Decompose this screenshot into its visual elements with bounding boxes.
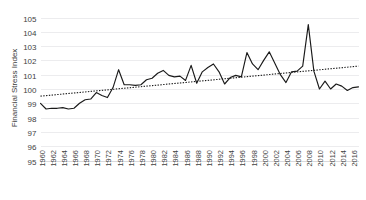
x-tick-1974: 1974 — [116, 150, 125, 166]
x-tick-1984: 1984 — [171, 150, 180, 166]
y-tick-103: 103 — [23, 43, 37, 52]
x-tick-2000: 2000 — [261, 150, 270, 166]
x-tick-1990: 1990 — [205, 150, 214, 166]
x-tick-1970: 1970 — [93, 150, 102, 166]
x-tick-1960: 1960 — [38, 150, 47, 166]
x-tick-1982: 1982 — [160, 150, 169, 166]
x-tick-2002: 2002 — [272, 150, 281, 166]
chart-plot-area: 9596979899100101102103104105 19601962196… — [0, 0, 366, 200]
y-tick-99: 99 — [28, 100, 37, 109]
x-tick-1996: 1996 — [238, 150, 247, 166]
x-tick-1992: 1992 — [216, 150, 225, 166]
x-tick-1980: 1980 — [149, 150, 158, 166]
x-tick-2004: 2004 — [283, 150, 292, 166]
x-tick-2014: 2014 — [339, 150, 348, 166]
x-tick-2010: 2010 — [316, 150, 325, 166]
x-tick-2006: 2006 — [294, 150, 303, 166]
x-tick-1978: 1978 — [138, 150, 147, 166]
financial-stress-index-chart: Financial Stress Index 95969798991001011… — [0, 0, 366, 200]
x-tick-2016: 2016 — [350, 150, 359, 166]
x-tick-2012: 2012 — [328, 150, 337, 166]
x-axis-tick-labels: 1960196219641966196819701972197419761978… — [38, 150, 359, 166]
y-tick-100: 100 — [23, 86, 37, 95]
x-tick-1976: 1976 — [127, 150, 136, 166]
x-tick-1988: 1988 — [194, 150, 203, 166]
y-tick-102: 102 — [23, 57, 37, 66]
x-tick-1998: 1998 — [250, 150, 259, 166]
y-tick-97: 97 — [28, 129, 37, 138]
y-axis-tick-labels: 9596979899100101102103104105 — [23, 15, 37, 167]
financial-stress-index-series — [41, 25, 359, 109]
y-tick-98: 98 — [28, 115, 37, 124]
y-tick-105: 105 — [23, 15, 37, 24]
x-tick-1968: 1968 — [82, 150, 91, 166]
x-tick-1964: 1964 — [60, 150, 69, 166]
gridlines — [41, 19, 359, 162]
y-tick-104: 104 — [23, 29, 37, 38]
x-tick-1972: 1972 — [104, 150, 113, 166]
trend-line-series — [41, 66, 359, 96]
y-tick-95: 95 — [28, 158, 37, 167]
x-tick-1966: 1966 — [71, 150, 80, 166]
x-tick-1986: 1986 — [183, 150, 192, 166]
y-tick-101: 101 — [23, 72, 37, 81]
y-tick-96: 96 — [28, 143, 37, 152]
x-tick-1994: 1994 — [227, 150, 236, 166]
x-tick-1962: 1962 — [49, 150, 58, 166]
x-tick-2008: 2008 — [305, 150, 314, 166]
